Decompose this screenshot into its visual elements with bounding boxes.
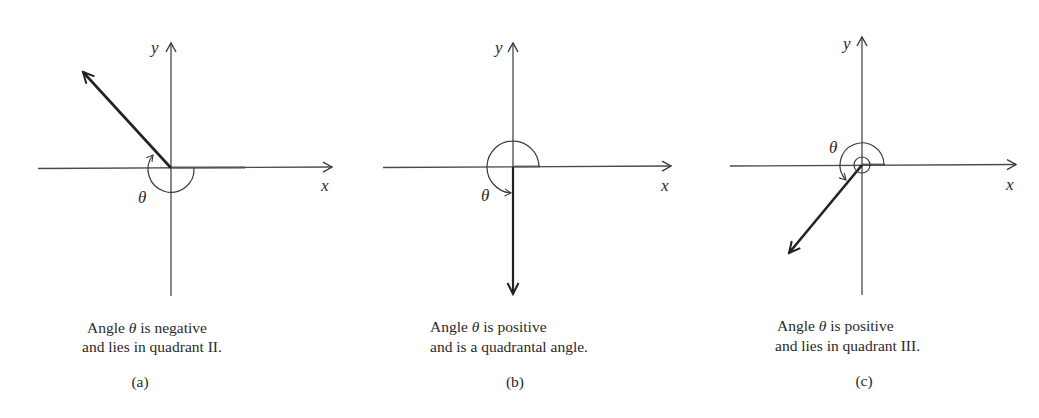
caption-c-line1: Angle θ is positive (777, 317, 894, 334)
caption-a-line1: Angle θ is negative (87, 319, 207, 336)
terminal-side-ray (789, 165, 862, 253)
caption-a-line2: and lies in quadrant II. (82, 338, 222, 355)
x-axis-label: x (660, 176, 669, 195)
panel-label-b: (b) (506, 373, 524, 391)
y-axis-label: y (841, 34, 851, 53)
x-axis-label: x (1005, 175, 1014, 194)
theta-label: θ (138, 188, 146, 207)
panel-a: y x θ Angle θ is negative and lies in qu… (38, 38, 332, 391)
caption-b-line1: Angle θ is positive (430, 318, 547, 335)
angle-diagram-figure: y x θ Angle θ is negative and lies in qu… (0, 0, 1039, 418)
panel-b: y x θ Angle θ is positive and is a quadr… (383, 38, 671, 391)
theta-label: θ (829, 138, 837, 157)
panel-label-a: (a) (131, 373, 148, 391)
theta-label: θ (481, 186, 489, 205)
caption-b-line2: and is a quadrantal angle. (430, 338, 588, 355)
y-axis-label: y (493, 38, 503, 57)
panel-c: y x θ Angle θ is positive and lies in qu… (730, 34, 1016, 390)
x-axis-label: x (320, 176, 329, 195)
caption-c-line2: and lies in quadrant III. (775, 337, 920, 354)
terminal-side-ray (83, 72, 171, 168)
panel-label-c: (c) (855, 372, 872, 390)
y-axis-label: y (149, 38, 159, 57)
